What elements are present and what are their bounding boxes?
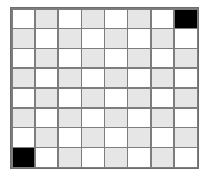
board-cell-r5-c7 [152,89,174,107]
board-cell-r1-c1 [13,10,35,28]
board-cell-r1-c4 [82,10,104,28]
board-cell-r5-c6 [128,89,150,107]
board-cell-r5-c5 [105,89,127,107]
board-cell-r3-c4 [82,49,104,67]
board-cell-r3-c2 [36,49,58,67]
board-cell-r1-c2 [36,10,58,28]
board-cell-r8-c7 [152,148,174,166]
board-cell-r4-c2 [36,69,58,87]
board-cell-r2-c3 [59,29,81,47]
board-cell-r4-c7 [152,69,174,87]
board-cell-r8-c2 [36,148,58,166]
board-cell-r6-c8 [175,109,197,127]
board-cell-r3-c5 [105,49,127,67]
board-cell-r1-c6 [128,10,150,28]
board-cell-r5-c8 [175,89,197,107]
board-cell-r1-c5 [105,10,127,28]
board-cell-r7-c4 [82,128,104,146]
board-cell-r7-c6 [128,128,150,146]
board-cell-r2-c7 [152,29,174,47]
board-cell-r6-c5 [105,109,127,127]
board-cell-r1-c7 [152,10,174,28]
board-cell-r6-c2 [36,109,58,127]
board-cell-r7-c5 [105,128,127,146]
board-cell-r3-c1 [13,49,35,67]
board-cell-r8-c6 [128,148,150,166]
board-cell-r7-c7 [152,128,174,146]
board-cell-r4-c8 [175,69,197,87]
board-cell-r4-c5 [105,69,127,87]
board-cell-r8-c5 [105,148,127,166]
board-cell-r6-c3 [59,109,81,127]
board-cell-r5-c1 [13,89,35,107]
board-cell-r7-c3 [59,128,81,146]
board-cell-r5-c4 [82,89,104,107]
board-cell-r2-c2 [36,29,58,47]
board-cell-r3-c3 [59,49,81,67]
board-cell-r7-c2 [36,128,58,146]
board-cell-r2-c5 [105,29,127,47]
board-cell-r6-c7 [152,109,174,127]
board-cell-r2-c6 [128,29,150,47]
checkerboard-grid [10,7,199,169]
board-cell-r6-c4 [82,109,104,127]
board-cell-r5-c3 [59,89,81,107]
board-cell-r1-c3 [59,10,81,28]
board-cell-r6-c1 [13,109,35,127]
board-cell-r2-c8 [175,29,197,47]
checkerboard-figure [0,0,209,176]
board-cell-r8-c4 [82,148,104,166]
board-cell-r8-c1 [13,148,35,166]
board-cell-r3-c7 [152,49,174,67]
board-cell-r6-c6 [128,109,150,127]
board-cell-r8-c3 [59,148,81,166]
board-cell-r4-c6 [128,69,150,87]
board-cell-r3-c8 [175,49,197,67]
board-cell-r7-c1 [13,128,35,146]
board-cell-r7-c8 [175,128,197,146]
board-cell-r2-c4 [82,29,104,47]
board-cell-r3-c6 [128,49,150,67]
board-cell-r4-c1 [13,69,35,87]
board-cell-r5-c2 [36,89,58,107]
board-cell-r4-c4 [82,69,104,87]
board-cell-r8-c8 [175,148,197,166]
board-cell-r1-c8 [175,10,197,28]
board-cell-r2-c1 [13,29,35,47]
board-cell-r4-c3 [59,69,81,87]
